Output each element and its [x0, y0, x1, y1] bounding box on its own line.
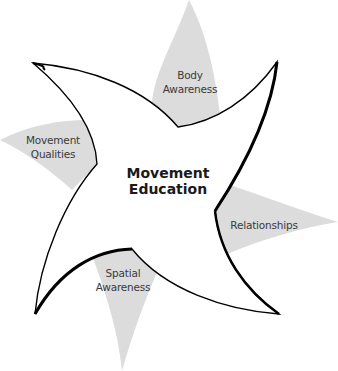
center-label-line: Education [118, 181, 218, 197]
label-movement-qualities: Movement Qualities [18, 133, 88, 161]
label-line: Awareness [155, 82, 225, 96]
label-line: Movement [18, 133, 88, 147]
label-relationships: Relationships [224, 218, 304, 232]
center-label-movement-education: Movement Education [118, 165, 218, 197]
label-line: Awareness [88, 280, 158, 294]
center-label-line: Movement [118, 165, 218, 181]
label-line: Qualities [18, 147, 88, 161]
label-spatial-awareness: Spatial Awareness [88, 266, 158, 294]
label-body-awareness: Body Awareness [155, 68, 225, 96]
label-line: Relationships [224, 218, 304, 232]
label-line: Body [155, 68, 225, 82]
petal-body-awareness [152, 0, 220, 127]
label-line: Spatial [88, 266, 158, 280]
